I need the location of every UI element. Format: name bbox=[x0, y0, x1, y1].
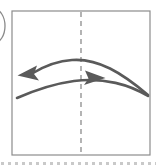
diagram-canvas bbox=[0, 0, 157, 168]
clipped-circle-label-icon bbox=[0, 9, 5, 43]
figure-panel: diagram-panel bbox=[0, 0, 157, 168]
